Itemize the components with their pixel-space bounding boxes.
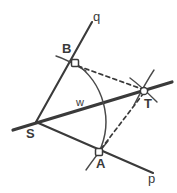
point-label-t: T: [144, 97, 152, 110]
angle-label-w: w: [76, 97, 84, 108]
ray-label-p: p: [148, 172, 155, 185]
point-label-s: S: [26, 127, 35, 140]
point-marker-t: [140, 87, 147, 94]
dashed-segment-b-t: [78, 66, 142, 89]
point-marker-b: [72, 60, 79, 67]
ray-label-q: q: [93, 10, 100, 23]
geometry-figure: S B A T q p w: [0, 0, 177, 193]
point-label-a: A: [96, 157, 105, 170]
point-marker-a: [96, 149, 103, 156]
point-label-b: B: [62, 42, 71, 55]
ray-p-line: [36, 122, 153, 173]
